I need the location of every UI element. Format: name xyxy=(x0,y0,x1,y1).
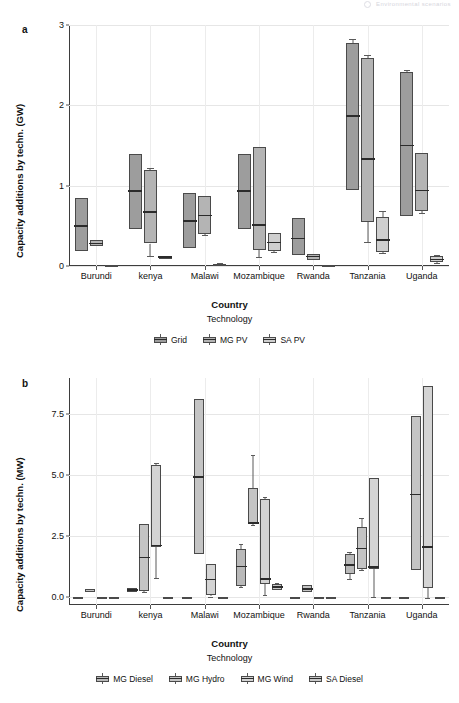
whisker-cap-lower xyxy=(271,252,277,253)
x-axis-category-label: Burundi xyxy=(81,271,112,281)
boxplot-mg-diesel xyxy=(127,378,137,605)
whisker-cap-upper xyxy=(263,497,268,498)
boxplot-sa-pv xyxy=(376,25,389,266)
whisker-cap-upper xyxy=(239,544,244,545)
median-line xyxy=(89,243,103,245)
median-line xyxy=(346,115,360,117)
whisker-cap-upper xyxy=(359,518,364,519)
legend-swatch-icon xyxy=(96,673,109,684)
whisker-cap-lower xyxy=(263,595,268,596)
boxplot-sa-diesel xyxy=(163,378,173,605)
whisker-cap-lower xyxy=(434,263,440,264)
panel-b-y-axis-label: Capacity additions by techn. (MW) xyxy=(14,457,25,612)
boxplot-sa-diesel xyxy=(326,378,336,605)
box xyxy=(163,597,173,599)
whisker-cap-lower xyxy=(371,597,376,598)
legend-item-mg-wind[interactable]: MG Wind xyxy=(241,673,293,684)
boxplot-sa-diesel xyxy=(218,378,228,605)
boxplot-sa-diesel xyxy=(381,378,391,605)
box xyxy=(381,597,391,599)
legend-item-sa-diesel[interactable]: SA Diesel xyxy=(309,673,363,684)
panel-b-legend: MG DieselMG HydroMG WindSA Diesel xyxy=(0,673,459,684)
legend-item-sa-pv[interactable]: SA PV xyxy=(263,334,305,345)
whisker-lower xyxy=(427,588,428,598)
boxplot-mg-wind xyxy=(151,378,161,605)
whisker-cap-upper xyxy=(349,39,355,40)
boxplot-mg-wind xyxy=(206,378,216,605)
boxplot-sa-diesel xyxy=(109,378,119,605)
boxplot-sa-pv xyxy=(430,25,443,266)
panel-b-letter: b xyxy=(22,378,28,389)
median-line xyxy=(356,548,367,550)
boxplot-grid xyxy=(346,25,359,266)
boxplot-mg-diesel xyxy=(290,378,300,605)
boxplot-sa-pv xyxy=(268,25,281,266)
box xyxy=(399,597,409,599)
box xyxy=(376,217,389,252)
boxplot-grid xyxy=(292,25,305,266)
legend-label: SA Diesel xyxy=(326,674,363,684)
legend-item-mg-hydro[interactable]: MG Hydro xyxy=(169,673,225,684)
whisker-cap-lower xyxy=(202,235,208,236)
y-tick-label: 1 xyxy=(59,181,69,191)
median-line xyxy=(183,220,197,222)
whisker-cap-lower xyxy=(239,587,244,588)
whisker-cap-upper xyxy=(364,55,370,56)
whisker-cap-lower xyxy=(419,213,425,214)
boxplot-mg-pv xyxy=(144,25,157,266)
box xyxy=(105,265,118,267)
boxplot-mg-hydro xyxy=(248,378,258,605)
median-line xyxy=(400,145,414,147)
panel-a-y-axis xyxy=(69,25,70,266)
box xyxy=(213,264,226,266)
median-line xyxy=(415,190,429,192)
box xyxy=(144,170,157,243)
x-axis-category-label: kenya xyxy=(138,610,162,620)
x-axis-category-label: Rwanda xyxy=(297,271,330,281)
boxplot-sa-pv xyxy=(105,25,118,266)
legend-label: Grid xyxy=(171,335,187,345)
x-axis-category-label: Rwanda xyxy=(297,610,330,620)
median-line xyxy=(368,566,379,568)
y-tick-label: 2 xyxy=(59,100,69,110)
legend-item-grid[interactable]: Grid xyxy=(154,334,187,345)
panel-a-plot-area: 0123BurundikenyaMalawiMozambiqueRwandaTa… xyxy=(69,25,449,266)
boxplot-mg-diesel xyxy=(345,378,355,605)
median-line xyxy=(422,546,433,548)
legend-item-mg-pv[interactable]: MG PV xyxy=(203,334,247,345)
legend-swatch-icon xyxy=(309,673,322,684)
y-tick-label: 0 xyxy=(59,261,69,271)
boxplot-mg-diesel xyxy=(399,378,409,605)
x-tick-mark xyxy=(205,266,206,270)
box xyxy=(85,589,95,592)
box xyxy=(423,386,433,588)
boxplot-sa-diesel xyxy=(435,378,445,605)
x-axis-category-label: Malawi xyxy=(191,271,219,281)
boxplot-mg-hydro xyxy=(302,378,312,605)
legend-label: MG Hydro xyxy=(186,674,225,684)
x-tick-mark xyxy=(259,266,260,270)
panel-a-x-axis-title: Country xyxy=(0,299,459,310)
whisker-cap-lower xyxy=(142,592,147,593)
x-axis-category-label: Tanzania xyxy=(350,610,386,620)
legend-label: SA PV xyxy=(280,335,305,345)
median-line xyxy=(74,225,88,227)
median-line xyxy=(430,259,444,261)
legend-label: MG PV xyxy=(220,335,247,345)
legend-item-mg-diesel[interactable]: MG Diesel xyxy=(96,673,153,684)
boxplot-mg-diesel xyxy=(236,378,246,605)
boxplot-grid xyxy=(183,25,196,266)
legend-label: MG Wind xyxy=(258,674,293,684)
x-tick-mark xyxy=(96,605,97,609)
whisker-cap-upper xyxy=(147,168,153,169)
boxplot-mg-pv xyxy=(415,25,428,266)
box xyxy=(369,478,379,570)
legend-swatch-icon xyxy=(169,673,182,684)
whisker-cap-lower xyxy=(256,257,262,258)
whisker-cap-upper xyxy=(251,455,256,456)
x-tick-mark xyxy=(313,266,314,270)
median-line xyxy=(291,238,305,240)
median-line xyxy=(248,522,259,524)
median-line xyxy=(193,476,204,478)
boxplot-mg-pv xyxy=(90,25,103,266)
